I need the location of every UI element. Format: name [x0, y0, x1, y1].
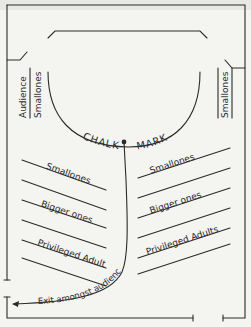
room-walls	[4, 5, 245, 321]
audience-label: Audience	[18, 76, 28, 118]
chalk-label: CHALK	[81, 130, 120, 151]
seating-diagram: CHALK MARK Audience Smallones Smallones …	[0, 0, 251, 327]
exit-path: Exit amongst audience	[0, 0, 127, 307]
smallones-left-side-label: Smallones	[33, 71, 43, 118]
svg-text:Smallones: Smallones	[45, 161, 92, 186]
svg-text:Bigger ones: Bigger ones	[148, 189, 202, 215]
arrowhead-icon	[12, 301, 19, 307]
smallones-right-side-label: Smallones	[220, 71, 230, 118]
right-seating-rows: Smallones Bigger ones Privileged Adults	[138, 148, 230, 274]
svg-text:Smallones: Smallones	[148, 152, 196, 176]
row-right-2-label: Bigger ones	[148, 189, 202, 215]
row-left-1-label: Smallones	[45, 161, 92, 186]
chalk-mark-line	[48, 72, 200, 147]
svg-text:Privileged Adults: Privileged Adults	[145, 224, 220, 257]
mark-label: MARK	[136, 131, 170, 151]
right-side-labels: Smallones	[218, 68, 230, 118]
row-right-1-label: Smallones	[148, 152, 196, 176]
row-right-3-label: Privileged Adults	[145, 224, 220, 257]
left-side-labels: Audience Smallones	[18, 68, 43, 118]
